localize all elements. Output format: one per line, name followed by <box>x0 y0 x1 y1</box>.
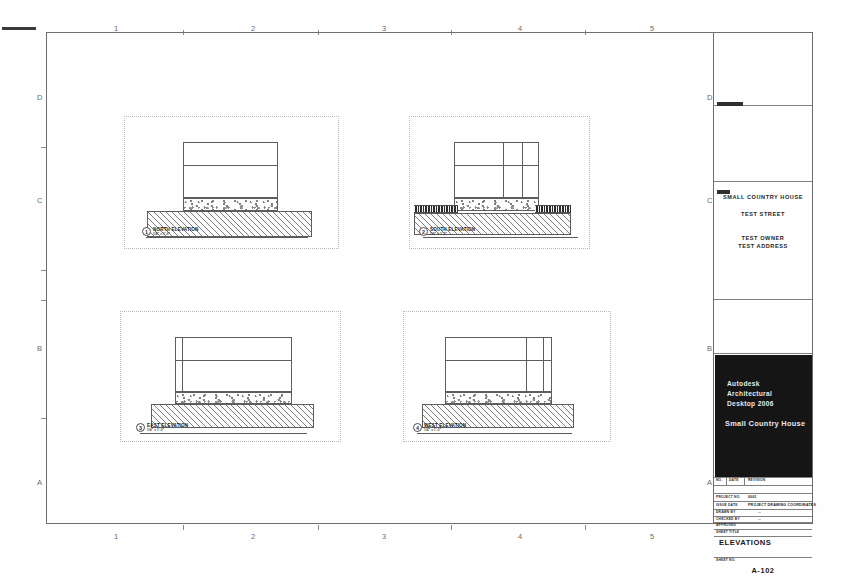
sheet-title-label: SHEET TITLE <box>716 530 739 534</box>
wall-mullion-1 <box>182 337 183 392</box>
drawing-border-frame <box>46 32 813 524</box>
owner-name: TEST OWNER <box>714 235 812 241</box>
brick-coursing-left <box>414 205 458 213</box>
north-elevation-viewport[interactable]: 1 NORTH ELEVATION 1/4" = 1'-0" <box>124 116 339 249</box>
grid-label-left-a: A <box>37 478 42 487</box>
sheet-title: ELEVATIONS <box>719 538 771 547</box>
wall-band-line <box>445 360 552 361</box>
view-number-bubble: 1 <box>142 227 151 236</box>
project-no-value: 0001 <box>748 495 757 499</box>
grid-label-bottom-1: 1 <box>114 532 118 541</box>
drawn-by-label: DRAWN BY <box>716 510 736 514</box>
view-label-underline <box>146 237 308 238</box>
titleblock-text-blob-1 <box>717 102 743 106</box>
revision-header-rule <box>714 485 812 486</box>
revision-row-1 <box>714 493 812 494</box>
approved-label: APPROVED <box>716 523 736 527</box>
titleblock: SMALL COUNTRY HOUSE TEST STREET TEST OWN… <box>713 33 812 523</box>
view-label-underline <box>140 433 307 434</box>
grid-tick-bottom-d <box>585 525 586 530</box>
autodesk-logo-panel: Autodesk Architectural Desktop 2006 Smal… <box>715 355 812 477</box>
stone-base-band <box>183 198 278 211</box>
revision-col-sep-1 <box>726 477 727 485</box>
wall-band-line <box>183 165 278 166</box>
project-name: SMALL COUNTRY HOUSE <box>714 194 812 200</box>
view-label-underline <box>423 237 578 238</box>
east-elevation-viewport[interactable]: 3 EAST ELEVATION 1/4" = 1'-0" <box>120 311 341 442</box>
issue-date-value: PROJECT DRAWING COORDINATES <box>748 503 816 507</box>
grid-label-left-d: D <box>37 93 43 102</box>
brick-coursing-right <box>535 205 571 213</box>
wall-mass <box>183 142 278 198</box>
view-scale: 1/4" = 1'-0" <box>430 232 447 236</box>
sheet-number: A-102 <box>714 566 812 575</box>
view-number-bubble: 2 <box>419 227 428 236</box>
grid-label-bottom-4: 4 <box>518 532 522 541</box>
revision-header-desc: REVISION <box>748 478 765 482</box>
titleblock-divider-6 <box>714 501 812 502</box>
grid-label-bottom-5: 5 <box>650 532 654 541</box>
grid-label-bottom-3: 3 <box>382 532 386 541</box>
titleblock-divider-3 <box>714 299 812 300</box>
view-scale: 1/4" = 1'-0" <box>153 232 170 236</box>
stone-base-band <box>175 392 292 404</box>
stone-base-band <box>445 392 552 404</box>
checked-by-value: -- <box>758 517 761 521</box>
grid-tick-bottom-b <box>318 525 319 530</box>
revision-header-date: DATE <box>729 478 739 482</box>
titleblock-divider-4 <box>714 353 812 354</box>
grid-tick-bottom-c <box>451 525 452 530</box>
owner-address: TEST ADDRESS <box>714 243 812 249</box>
sheet-no-label: SHEET NO. <box>716 558 736 562</box>
project-no-label: PROJECT NO. <box>716 495 741 499</box>
titleblock-divider-11 <box>714 536 812 537</box>
project-street: TEST STREET <box>714 211 812 217</box>
checked-by-label: CHECKED BY <box>716 517 740 521</box>
grid-label-left-c: C <box>37 196 43 205</box>
wall-mass <box>454 142 539 198</box>
titleblock-divider-2 <box>714 181 812 182</box>
view-scale: 1/4" = 1'-0" <box>424 428 441 432</box>
footing-hatch <box>147 211 312 237</box>
view-number-bubble: 4 <box>413 423 422 432</box>
west-elevation-viewport[interactable]: 4 WEST ELEVATION 1/4" = 1'-0" <box>403 311 611 442</box>
view-number-bubble: 3 <box>136 423 145 432</box>
south-elevation-viewport[interactable]: 2 SOUTH ELEVATION 1/4" = 1'-0" <box>409 116 590 249</box>
grid-label-left-b: B <box>37 344 42 353</box>
logo-line-3: Desktop 2006 <box>727 399 774 408</box>
logo-line-2: Architectural <box>727 389 772 398</box>
grid-tick-bottom-a <box>183 525 184 530</box>
revision-header-no: NO. <box>716 478 722 482</box>
wall-band-line <box>175 360 292 361</box>
logo-project-name: Small Country House <box>725 419 805 428</box>
revision-col-sep-2 <box>744 477 745 485</box>
scan-artifact-mark <box>2 27 36 30</box>
logo-line-1: Autodesk <box>727 379 760 388</box>
wall-mass <box>175 337 292 392</box>
architectural-drawing-sheet: 1 2 3 4 5 1 2 3 4 5 D C B A D C B A <box>0 0 849 576</box>
view-scale: 1/4" = 1'-0" <box>147 428 164 432</box>
grid-label-bottom-2: 2 <box>251 532 255 541</box>
issue-date-label: ISSUE DATE <box>716 503 738 507</box>
wall-mass <box>445 337 552 392</box>
view-label-underline <box>417 433 572 434</box>
drawn-by-value: -- <box>758 510 761 514</box>
stone-base-band <box>454 198 539 211</box>
wall-band-line <box>454 165 539 166</box>
